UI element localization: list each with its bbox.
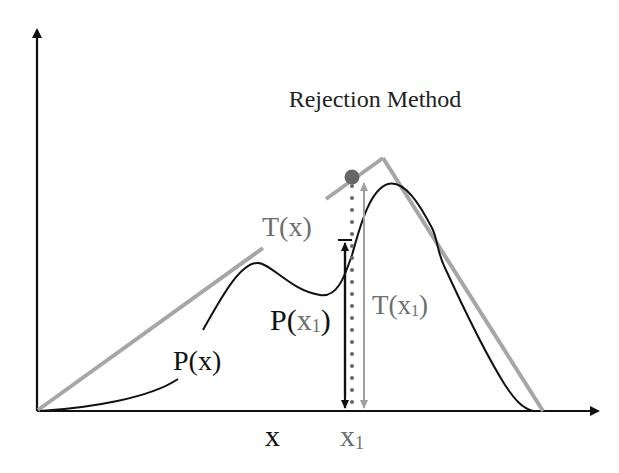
pdf-at-x1-suffix: ) [321,303,331,337]
envelope-at-x1-label: T(x1) [372,290,428,320]
rejection-method-diagram: Rejection Method T(x) P(x) P(x1) T(x1) x… [0,0,619,473]
envelope-label: T(x) [262,211,312,242]
x1-sub: 1 [355,433,364,453]
x-axis-label: x [265,419,280,452]
pdf-at-x1-label: P(x1) [270,303,331,337]
pdf-at-x1-var: x [297,303,312,336]
pdf-label: P(x) [173,345,221,376]
pdf-curve-upper [203,184,533,411]
envelope-at-x1-var: x [397,290,411,320]
pdf-at-x1-sub: 1 [312,316,321,336]
sample-point [345,170,360,185]
diagram-title: Rejection Method [289,86,462,112]
envelope-at-x1-prefix: T( [372,290,397,320]
envelope-line-left-lower [38,248,263,410]
pdf-at-x1-prefix: P( [270,303,297,337]
envelope-line-right [383,158,543,411]
envelope-at-x1-suffix: ) [419,290,428,320]
x1-var: x [340,419,355,452]
envelope-at-x1-sub: 1 [411,302,419,319]
x1-label: x1 [340,419,364,453]
